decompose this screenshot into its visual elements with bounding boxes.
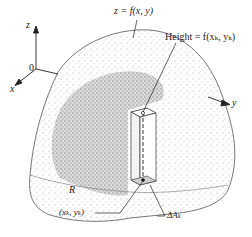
surface-label: z = f(x, y)	[114, 6, 153, 16]
origin-label: 0	[29, 63, 34, 73]
z-axis-label: z	[26, 20, 30, 30]
prism	[131, 108, 156, 185]
x-axis-label: x	[10, 84, 14, 94]
height-label: Height = f(xₖ, yₖ)	[165, 32, 235, 42]
area-element-label: ΔAₖ	[167, 211, 181, 220]
point-label: (xₖ, yₖ)	[59, 208, 84, 217]
diagram-canvas: z 0 x y z = f(x, y) Height = f(xₖ, yₖ) R…	[0, 0, 252, 237]
region-label: R	[69, 185, 75, 195]
y-axis-label: y	[232, 98, 236, 108]
